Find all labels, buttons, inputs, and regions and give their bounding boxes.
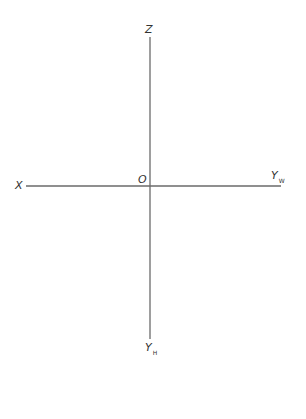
- yw-label-text: Y: [271, 169, 278, 182]
- x-label-text: X: [15, 179, 23, 192]
- origin-label-text: O: [138, 173, 147, 186]
- diagram-canvas: Z X O YW YH: [0, 0, 306, 419]
- z-axis-label: Z: [145, 24, 153, 35]
- yh-label-text: Y: [145, 341, 152, 354]
- axes-svg: [0, 0, 306, 419]
- origin-label: O: [138, 174, 147, 185]
- yw-axis-label: YW: [271, 170, 284, 181]
- yw-subscript: W: [279, 177, 285, 184]
- z-label-text: Z: [145, 23, 153, 36]
- x-axis-label: X: [15, 180, 23, 191]
- yh-subscript: H: [153, 349, 158, 356]
- yh-axis-label: YH: [145, 342, 156, 353]
